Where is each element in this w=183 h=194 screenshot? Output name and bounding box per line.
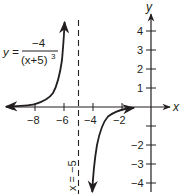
y-tick-label: −3 [131,158,144,170]
equation-label: y = −4 (x+5) 3 [2,37,58,66]
asymptote-label: x = −5 [66,160,78,191]
y-axis: y [145,0,153,192]
x-tick-label: −8 [27,114,40,126]
y-tick-label: 3 [137,44,143,56]
equation-exponent: 3 [51,52,56,61]
x-tick-label: −4 [84,114,97,126]
y-axis-label: y [145,0,153,14]
y-tick-label: −4 [131,177,144,189]
x-tick-label: −2 [113,114,126,126]
equation-numerator: −4 [32,37,46,49]
y-tick-label: 1 [137,82,143,94]
y-tick-label: −2 [131,139,144,151]
equation-denominator: (x+5) [21,54,48,66]
x-tick-labels: −8 −6 −4 −2 [27,114,126,126]
y-tick-label: 4 [137,25,143,37]
x-tick-label: −6 [56,114,69,126]
equation-lhs: y = [2,46,19,58]
rational-function-graph: x y −8 −6 −4 −2 4 3 2 1 −2 −3 −4 [0,0,183,194]
x-axis-label: x [172,100,180,114]
y-tick-label: 2 [137,63,143,75]
